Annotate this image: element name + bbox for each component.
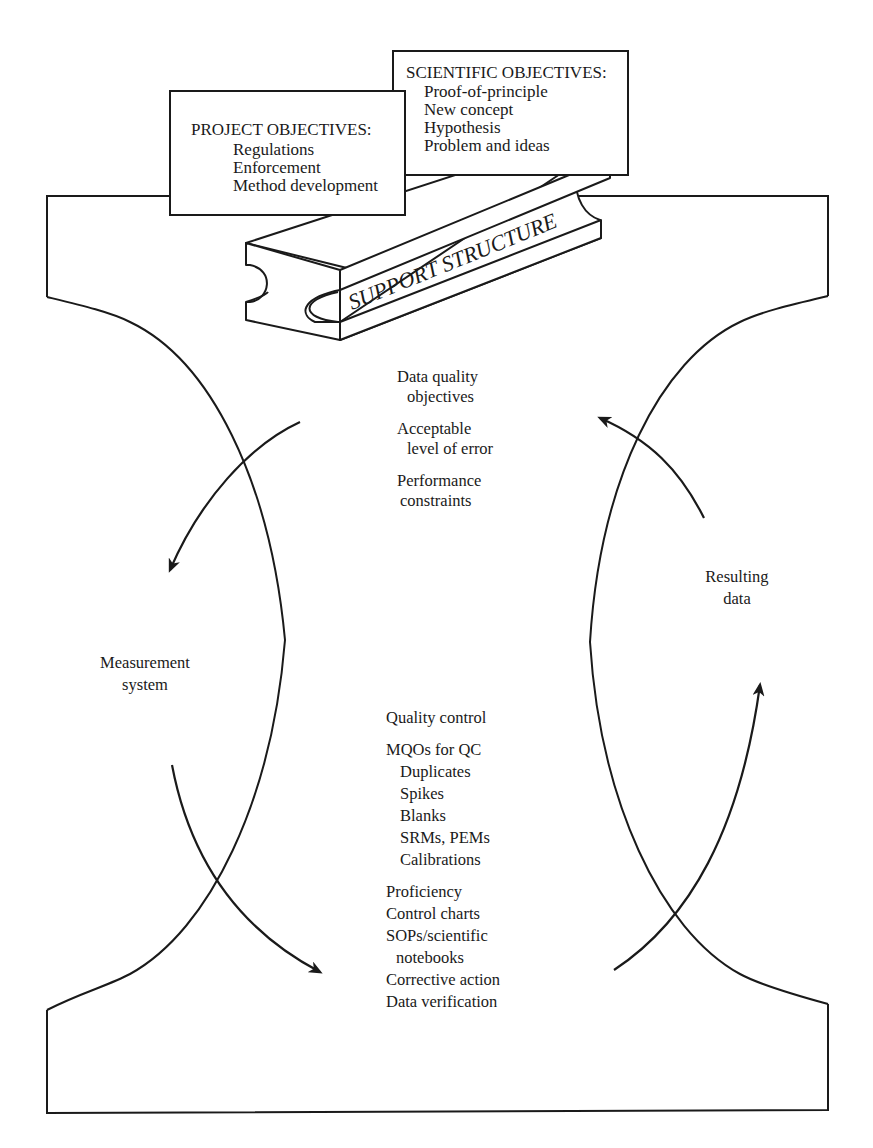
qc-item: Proficiency (386, 881, 500, 903)
list-item: New concept (424, 101, 550, 119)
qc-item: Data verification (386, 991, 500, 1013)
qc-item: notebooks (386, 947, 500, 969)
mqos-heading: MQOs for QC (386, 739, 500, 761)
dqo-line-2: objectives (397, 387, 493, 407)
upper-center-text: Data quality objectives Acceptable level… (397, 367, 493, 511)
scientific-objectives-box: SCIENTIFIC OBJECTIVES: Proof-of-principl… (392, 50, 629, 176)
label-line: data (692, 588, 782, 610)
dqo-line-1: Data quality (397, 367, 493, 387)
upper-right-arrow (600, 418, 704, 518)
mqo-item: Duplicates (386, 761, 500, 783)
performance-line-1: Performance (397, 471, 493, 491)
qc-item: Corrective action (386, 969, 500, 991)
upper-left-arrow (170, 422, 300, 570)
list-item: Enforcement (233, 159, 378, 177)
list-item: Method development (233, 177, 378, 195)
resulting-data-label: Resulting data (692, 566, 782, 610)
acceptable-error-line-2: level of error (397, 439, 493, 459)
mqo-item: Blanks (386, 805, 500, 827)
measurement-system-label: Measurement system (90, 652, 200, 696)
label-line: Resulting (692, 566, 782, 588)
quality-control-heading: Quality control (386, 707, 500, 729)
lower-right-arrow (614, 685, 760, 970)
project-objectives-list: Regulations Enforcement Method developme… (233, 141, 378, 195)
label-line: Measurement (90, 652, 200, 674)
list-item: Hypothesis (424, 119, 550, 137)
acceptable-error-line-1: Acceptable (397, 419, 493, 439)
lower-center-text: Quality control MQOs for QC Duplicates S… (386, 707, 500, 1013)
mqo-item: SRMs, PEMs (386, 827, 500, 849)
scientific-objectives-list: Proof-of-principle New concept Hypothesi… (424, 83, 550, 155)
list-item: Proof-of-principle (424, 83, 550, 101)
scientific-objectives-heading: SCIENTIFIC OBJECTIVES: (406, 63, 607, 82)
list-item: Problem and ideas (424, 137, 550, 155)
lower-left-arrow (172, 765, 320, 972)
performance-line-2: constraints (397, 491, 493, 511)
mqo-item: Calibrations (386, 849, 500, 871)
qc-item: Control charts (386, 903, 500, 925)
qc-item: SOPs/scientific (386, 925, 500, 947)
label-line: system (90, 674, 200, 696)
list-item: Regulations (233, 141, 378, 159)
mqo-item: Spikes (386, 783, 500, 805)
project-objectives-box: PROJECT OBJECTIVES: Regulations Enforcem… (169, 90, 406, 216)
project-objectives-heading: PROJECT OBJECTIVES: (191, 120, 372, 139)
